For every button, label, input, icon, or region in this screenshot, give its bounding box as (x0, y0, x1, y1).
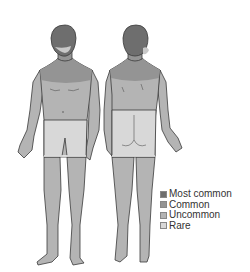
swatch-common (160, 201, 167, 208)
legend-label: Common (169, 200, 210, 210)
front-body-view (18, 25, 100, 265)
legend-item-rare: Rare (160, 221, 232, 232)
legend-label: Uncommon (169, 210, 220, 220)
legend-item-uncommon: Uncommon (160, 210, 232, 221)
swatch-rare (160, 222, 167, 229)
swatch-most-common (160, 191, 167, 198)
back-shoulders-common (110, 58, 160, 81)
front-left-leg (37, 157, 61, 265)
legend-item-most-common: Most common (160, 189, 232, 200)
front-left-arm (18, 70, 43, 158)
back-ear-rare (143, 47, 149, 54)
back-left-leg (112, 157, 134, 262)
legend-label: Most common (169, 189, 232, 199)
back-right-arm (158, 70, 182, 152)
body-distribution-figure (0, 0, 250, 272)
back-right-leg (136, 157, 155, 262)
legend-label: Rare (169, 221, 191, 231)
front-right-leg (67, 157, 86, 265)
swatch-uncommon (160, 212, 167, 219)
front-chest-common (40, 58, 92, 83)
legend: Most common Common Uncommon Rare (160, 189, 232, 231)
